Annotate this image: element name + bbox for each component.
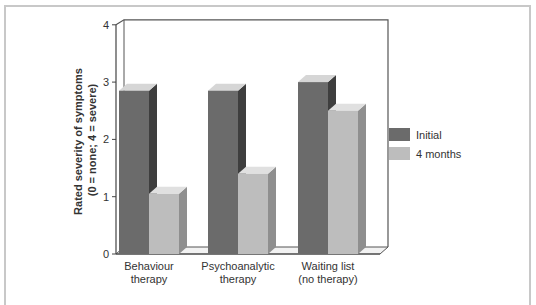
legend-swatch <box>389 147 410 160</box>
legend-swatch <box>389 128 410 141</box>
bar-4-months <box>149 187 187 254</box>
legend-label: 4 months <box>416 148 462 160</box>
y-tick-label: 1 <box>103 191 109 203</box>
x-axis-labels: BehaviourtherapyPsychoanalytictherapyWai… <box>124 260 357 285</box>
x-category-label: Behaviourtherapy <box>124 260 174 285</box>
legend-label: Initial <box>416 129 442 141</box>
y-tick-label: 2 <box>103 133 109 145</box>
bar-4-months <box>238 167 276 254</box>
x-category-label: Psychoanalytictherapy <box>201 260 275 285</box>
y-tick-label: 0 <box>103 248 109 260</box>
bar-4-months <box>328 104 366 254</box>
y-tick-label: 4 <box>103 19 109 31</box>
x-category-label: Waiting list(no therapy) <box>298 260 357 285</box>
bars <box>119 75 366 254</box>
y-tick-label: 3 <box>103 76 109 88</box>
legend: Initial4 months <box>389 128 462 160</box>
y-axis-title: Rated severity of symptoms (0 = none; 4 … <box>72 65 98 215</box>
